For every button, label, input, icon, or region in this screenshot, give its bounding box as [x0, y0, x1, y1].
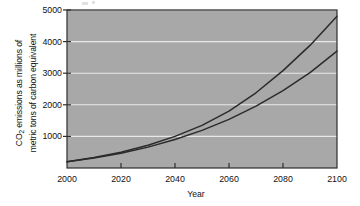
plot-area	[63, 10, 337, 168]
plot-background	[67, 10, 337, 168]
plot-svg	[0, 0, 360, 206]
chart-figure: CO2 emissions as millions of metric tons…	[0, 0, 360, 206]
